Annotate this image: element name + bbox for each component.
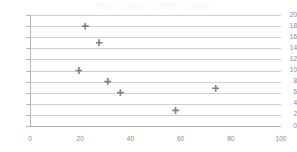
plot-area: [30, 15, 281, 126]
chart-title-artifact: [96, 2, 216, 9]
scatter-chart: 02468101214161820 020406080100: [0, 0, 297, 152]
y-axis-tick: [26, 115, 31, 116]
x-axis-tick-label: 80: [219, 136, 243, 143]
gridline: [30, 48, 281, 49]
x-axis-tick-label: 100: [269, 136, 293, 143]
y-axis-tick: [26, 93, 31, 94]
y-axis-tick: [26, 82, 31, 83]
x-axis-tick-label: 0: [18, 136, 42, 143]
y-axis-tick: [26, 15, 31, 16]
y-axis-tick-label: 12: [275, 56, 297, 63]
y-axis-tick: [26, 48, 31, 49]
gridline: [30, 15, 281, 16]
y-axis-tick: [26, 104, 31, 105]
gridline: [30, 126, 281, 127]
y-axis-tick: [26, 37, 31, 38]
y-axis-tick: [26, 71, 31, 72]
y-axis-tick: [26, 126, 31, 127]
y-axis-tick: [26, 59, 31, 60]
y-axis-tick-label: 20: [275, 12, 297, 19]
gridline: [30, 93, 281, 94]
y-axis-tick-label: 14: [275, 45, 297, 52]
gridline: [30, 104, 281, 105]
y-axis-tick-label: 16: [275, 34, 297, 41]
gridline: [30, 82, 281, 83]
y-axis-tick-label: 2: [275, 111, 297, 118]
y-axis-tick: [26, 26, 31, 27]
data-point: [82, 23, 89, 30]
y-axis-tick-label: 8: [275, 78, 297, 85]
x-axis-tick-label: 60: [169, 136, 193, 143]
y-axis-tick-label: 6: [275, 89, 297, 96]
x-axis-tick-label: 20: [68, 136, 92, 143]
data-point: [172, 107, 179, 114]
y-axis-tick-label: 4: [275, 100, 297, 107]
gridline: [30, 71, 281, 72]
gridline: [30, 37, 281, 38]
x-axis-tick-label: 40: [118, 136, 142, 143]
y-axis-tick-label: 10: [275, 67, 297, 74]
data-point: [96, 39, 103, 46]
y-axis-tick-label: 0: [275, 123, 297, 130]
gridline: [30, 26, 281, 27]
data-point: [104, 78, 111, 85]
gridline: [30, 115, 281, 116]
data-point: [212, 85, 219, 92]
gridline: [30, 59, 281, 60]
y-axis-tick-label: 18: [275, 23, 297, 30]
data-point: [117, 89, 124, 96]
data-point: [75, 67, 82, 74]
